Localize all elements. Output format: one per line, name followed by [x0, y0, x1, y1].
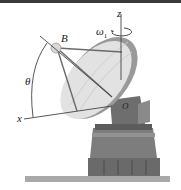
x-axis-label: x	[17, 113, 22, 124]
base-cap	[95, 124, 152, 130]
omega-symbol: ω	[96, 25, 104, 37]
base-tower	[90, 128, 157, 158]
theta-label: θ	[25, 76, 30, 87]
omega-label: ω1	[96, 26, 107, 40]
origin-O-label: O	[122, 102, 129, 111]
ground-slab	[25, 176, 170, 182]
z-axis-label: z	[117, 8, 121, 19]
base-footing	[88, 158, 160, 176]
point-B-label: B	[61, 33, 68, 44]
omega-subscript: 1	[104, 32, 108, 40]
rotation-arrow	[112, 28, 132, 36]
theta-arc	[32, 43, 47, 117]
telescope-diagram	[0, 0, 181, 190]
feed-point-B	[51, 43, 61, 53]
